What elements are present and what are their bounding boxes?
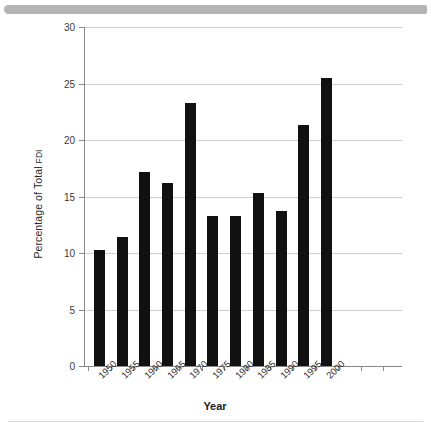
top-banner xyxy=(4,5,427,14)
gridline xyxy=(84,27,402,28)
bar xyxy=(321,78,332,366)
x-axis-tick xyxy=(383,366,384,371)
y-axis-tick xyxy=(79,366,84,367)
gridline xyxy=(84,310,402,311)
gridline xyxy=(84,197,402,198)
plot-area: 051015202530 195019551960196519701975198… xyxy=(84,27,402,366)
bar xyxy=(276,211,287,366)
bar xyxy=(253,193,264,366)
bar xyxy=(207,216,218,366)
y-axis-tick xyxy=(79,310,84,311)
y-axis-tick-label: 25 xyxy=(64,78,75,89)
y-axis-tick-label: 15 xyxy=(64,191,75,202)
chart-figure: Percentage of Total FDI 051015202530 195… xyxy=(0,0,431,428)
y-axis-tick-label: 5 xyxy=(69,304,75,315)
x-axis-tick xyxy=(361,366,362,371)
bar xyxy=(94,250,105,366)
y-axis-tick xyxy=(79,197,84,198)
bar xyxy=(298,125,309,366)
gridline xyxy=(84,84,402,85)
y-axis-title: Percentage of Total FDI xyxy=(32,104,44,304)
y-axis-tick-label: 0 xyxy=(69,361,75,372)
bottom-divider xyxy=(8,421,423,422)
bar xyxy=(162,183,173,366)
bar xyxy=(230,216,241,366)
y-axis-tick-label: 10 xyxy=(64,248,75,259)
x-axis-title: Year xyxy=(70,400,360,412)
y-axis-tick xyxy=(79,253,84,254)
y-axis-line xyxy=(84,27,85,366)
y-axis-tick-label: 20 xyxy=(64,135,75,146)
y-axis-title-abbrev: FDI xyxy=(34,149,44,163)
y-axis-tick-label: 30 xyxy=(64,22,75,33)
y-axis-tick xyxy=(79,27,84,28)
y-axis-tick xyxy=(79,140,84,141)
bar xyxy=(117,237,128,366)
y-axis-title-main: Percentage of Total xyxy=(32,163,44,258)
gridline xyxy=(84,253,402,254)
y-axis-tick xyxy=(79,84,84,85)
gridline xyxy=(84,140,402,141)
bar xyxy=(185,103,196,366)
x-axis-tick xyxy=(88,366,89,371)
bar xyxy=(139,172,150,366)
